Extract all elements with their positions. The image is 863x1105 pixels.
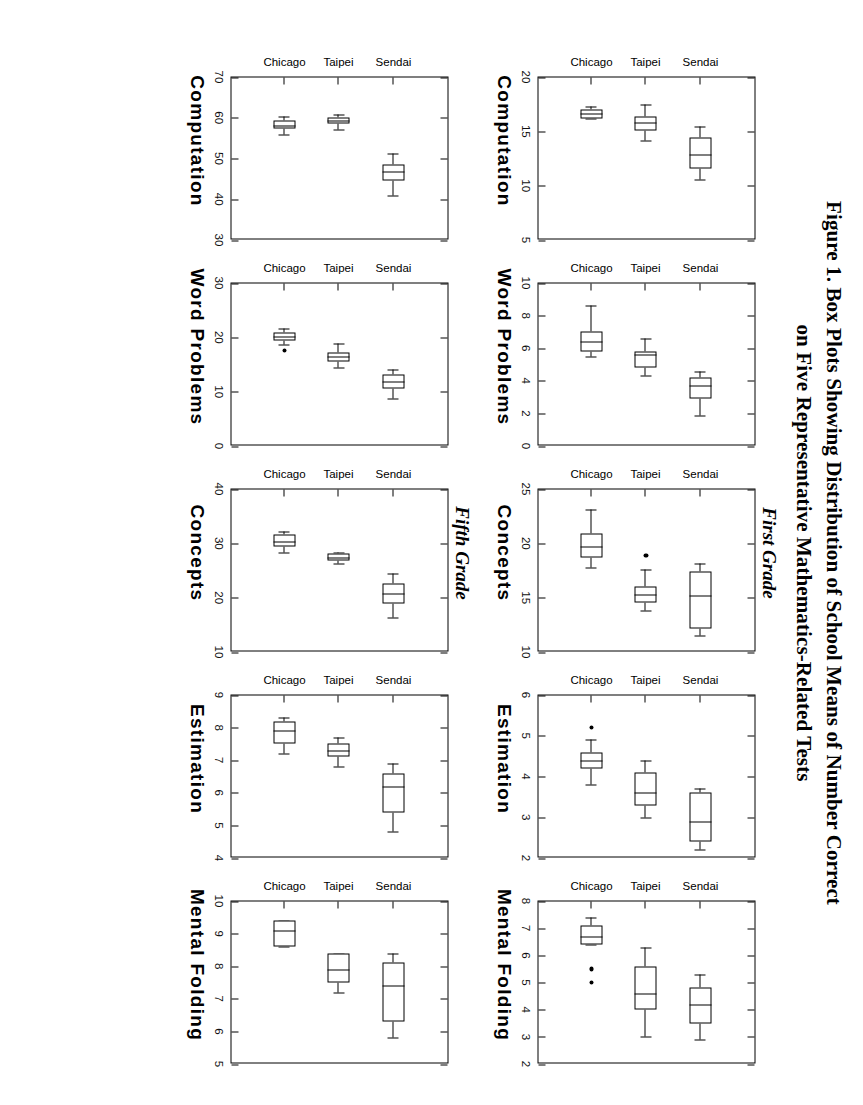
panel-test-title: Word Problems <box>492 249 514 445</box>
value-axis-tick <box>538 858 545 859</box>
value-axis-tick <box>231 966 238 967</box>
value-axis-tick <box>747 735 754 736</box>
value-axis-tick <box>231 695 238 696</box>
category-label-chicago: Chicago <box>570 467 612 479</box>
value-axis-tick <box>747 131 754 132</box>
category-axis-tick <box>392 283 393 290</box>
whisker-cap-lower <box>333 766 344 767</box>
category-axis-tick <box>283 283 284 290</box>
median-line <box>327 356 349 357</box>
category-axis-tick <box>337 283 338 290</box>
value-axis-tick <box>747 928 754 929</box>
value-axis-tick <box>538 1064 545 1065</box>
value-axis-tick <box>747 858 754 859</box>
value-axis-tick <box>747 283 754 284</box>
whisker-cap-lower <box>278 344 289 345</box>
plot-area: 456789SendaiTaipeiChicago <box>230 694 448 857</box>
category-label-taipei: Taipei <box>323 673 353 685</box>
whisker-lower <box>337 560 338 564</box>
category-axis-labels <box>517 900 537 1063</box>
category-label-sendai: Sendai <box>682 673 718 685</box>
value-axis-tick <box>538 652 545 653</box>
whisker-cap-lower <box>278 552 289 553</box>
value-axis-tick <box>538 1009 545 1010</box>
value-axis-tick <box>538 489 545 490</box>
category-label-chicago: Chicago <box>570 55 612 67</box>
value-axis-tick <box>440 901 447 902</box>
whisker-lower <box>392 388 393 397</box>
whisker-cap-upper <box>585 106 596 107</box>
whisker-upper <box>644 338 645 351</box>
value-axis-tick <box>231 652 238 653</box>
whisker-lower <box>392 603 393 617</box>
median-line <box>634 122 656 123</box>
category-label-taipei: Taipei <box>630 467 660 479</box>
value-axis-tick <box>538 901 545 902</box>
iqr-box <box>273 920 295 946</box>
whisker-cap-upper <box>585 305 596 306</box>
median-line <box>273 125 295 126</box>
whisker-lower <box>644 367 645 375</box>
whisker-cap-upper <box>640 104 651 105</box>
value-axis-tick <box>747 185 754 186</box>
whisker-cap-lower <box>387 617 398 618</box>
value-axis-tick <box>231 117 238 118</box>
median-line <box>689 385 711 386</box>
value-axis-tick <box>440 727 447 728</box>
whisker-cap-lower <box>585 356 596 357</box>
value-axis-tick <box>538 413 545 414</box>
whisker-lower <box>644 805 645 817</box>
whisker-cap-lower <box>585 567 596 568</box>
whisker-cap-lower <box>694 1039 705 1040</box>
whisker-cap-lower <box>333 367 344 368</box>
value-axis-tick <box>231 77 238 78</box>
value-axis-tick <box>440 489 447 490</box>
whisker-cap-lower <box>387 398 398 399</box>
value-axis-tick <box>747 315 754 316</box>
panel-test-title: Concepts <box>492 455 514 651</box>
whisker-cap-upper <box>694 371 705 372</box>
whisker-cap-upper <box>585 739 596 740</box>
whisker-lower <box>590 768 591 784</box>
outlier-point <box>643 553 648 558</box>
value-axis-tick <box>747 380 754 381</box>
value-axis-tick <box>538 817 545 818</box>
value-axis-tick <box>538 185 545 186</box>
median-line <box>273 730 295 731</box>
category-axis-tick <box>699 283 700 290</box>
value-axis-tick <box>538 240 545 241</box>
value-axis-tick <box>231 901 238 902</box>
plot-area: 5101520SendaiTaipeiChicago <box>537 76 755 239</box>
category-axis-labels <box>210 282 230 445</box>
value-axis-tick <box>231 489 238 490</box>
whisker-cap-upper <box>640 569 651 570</box>
category-axis-tick <box>392 901 393 908</box>
value-axis-tick <box>440 998 447 999</box>
value-axis-tick <box>231 1031 238 1032</box>
whisker-cap-lower <box>640 1036 651 1037</box>
panel-mental-folding-fifth-grade: 5678910SendaiTaipeiChicagoMental Folding <box>185 867 448 1063</box>
iqr-box <box>382 773 404 812</box>
category-label-taipei: Taipei <box>323 467 353 479</box>
iqr-box <box>327 553 349 560</box>
value-axis-tick <box>440 825 447 826</box>
category-label-sendai: Sendai <box>375 55 411 67</box>
category-axis-tick <box>337 489 338 496</box>
figure-title-line-2: on Five Representative Mathematics-Relat… <box>787 70 817 1035</box>
value-axis-tick <box>440 77 447 78</box>
whisker-cap-upper <box>387 763 398 764</box>
panel-test-title: Computation <box>492 43 514 239</box>
figure-title-line-1: Figure 1. Box Plots Showing Distribution… <box>817 70 847 1035</box>
category-axis-tick <box>337 77 338 84</box>
category-axis-tick <box>392 77 393 84</box>
value-axis-tick <box>538 776 545 777</box>
median-line <box>273 541 295 542</box>
category-label-taipei: Taipei <box>323 879 353 891</box>
whisker-lower <box>283 743 284 753</box>
category-label-sendai: Sendai <box>682 879 718 891</box>
value-axis-tick <box>538 955 545 956</box>
whisker-cap-lower <box>333 129 344 130</box>
panel-test-title: Estimation <box>185 661 207 857</box>
whisker-upper <box>590 305 591 331</box>
median-line <box>580 113 602 114</box>
